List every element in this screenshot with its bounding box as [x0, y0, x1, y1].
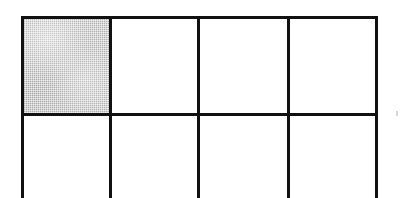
grid-cell-r2c1[interactable]: [21, 113, 110, 198]
grid-cell-r1c1[interactable]: [21, 16, 110, 113]
grid-cell-r2c3[interactable]: [198, 113, 288, 198]
scan-speck-artifact: [396, 111, 398, 116]
grid-cell-r2c4[interactable]: [288, 113, 378, 198]
grid-line-vertical-4: [287, 16, 290, 198]
grid-line-vertical-1: [21, 16, 24, 198]
grid-cell-r2c2[interactable]: [110, 113, 198, 198]
grid-diagram: [21, 16, 378, 198]
grid-cell-r1c2[interactable]: [110, 16, 198, 113]
grid-line-vertical-3: [197, 16, 200, 198]
figure-page: [0, 0, 415, 198]
grid-cell-r1c4[interactable]: [288, 16, 378, 113]
grid-line-vertical-5: [375, 16, 378, 198]
grid-line-vertical-2: [109, 16, 112, 198]
grid-cell-r1c3[interactable]: [198, 16, 288, 113]
